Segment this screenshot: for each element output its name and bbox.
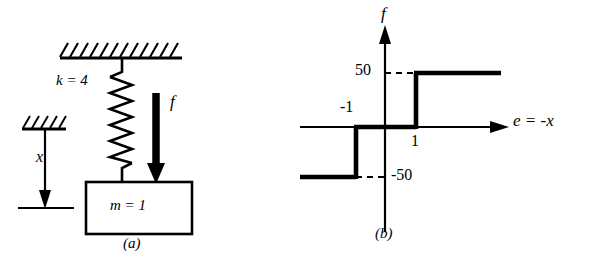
force-arrow-f bbox=[147, 93, 165, 184]
caption-panel-a: (a) bbox=[123, 236, 141, 251]
x-axis-arrowhead bbox=[490, 121, 509, 133]
displacement-reference bbox=[18, 116, 74, 209]
ytick-label-pos-50: 50 bbox=[355, 62, 371, 78]
ceiling-support bbox=[60, 43, 182, 58]
label-y-axis-f: f bbox=[381, 5, 386, 22]
label-force-f: f bbox=[170, 93, 175, 110]
xtick-label-neg-1: -1 bbox=[340, 99, 353, 115]
ytick-label-neg-50: -50 bbox=[391, 167, 412, 183]
figure-canvas: k = 4 x f m = 1 (a) bbox=[0, 0, 604, 260]
panel-a-diagram bbox=[0, 0, 300, 260]
label-mass: m = 1 bbox=[110, 198, 146, 213]
label-displacement-x: x bbox=[36, 149, 43, 165]
spring-element bbox=[110, 58, 132, 182]
panel-b-chart bbox=[300, 0, 604, 260]
datum-hatching bbox=[23, 116, 66, 128]
ceiling-hatching bbox=[60, 43, 178, 57]
label-x-axis-e: e = -x bbox=[513, 112, 554, 129]
displacement-arrow-x bbox=[39, 129, 51, 209]
xtick-label-pos-1: 1 bbox=[411, 133, 419, 149]
y-axis-arrowhead bbox=[379, 25, 391, 44]
caption-panel-b: (b) bbox=[375, 226, 393, 241]
label-spring-constant: k = 4 bbox=[56, 73, 88, 88]
